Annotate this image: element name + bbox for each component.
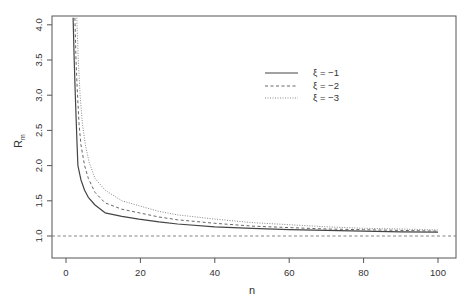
legend-item-1: ξ = −1 [265,67,339,78]
y-tick-label: 4.0 [33,18,44,31]
y-tick-label: 3.0 [33,89,44,102]
x-axis-label: n [249,284,255,296]
y-axis-label: Rm [12,134,26,148]
x-axis: 020406080100 [63,258,446,278]
series-line-2 [75,18,438,231]
chart: 020406080100 1.01.52.02.53.03.54.0 n Rm … [0,0,473,305]
legend: ξ = −1 ξ = −2 ξ = −3 [265,67,339,103]
legend-item-2: ξ = −2 [265,80,339,91]
y-tick-label: 1.0 [33,229,44,242]
svg-text:Rm: Rm [12,134,26,148]
x-tick-label: 100 [430,267,446,278]
series-layer [73,18,438,232]
legend-item-3: ξ = −3 [265,92,339,103]
x-tick-label: 60 [284,267,295,278]
y-tick-label: 2.0 [33,159,44,172]
y-axis: 1.01.52.02.53.03.54.0 [33,18,52,242]
x-tick-label: 0 [63,267,68,278]
x-tick-label: 20 [135,267,146,278]
plot-frame [52,16,456,258]
y-tick-label: 3.5 [33,53,44,66]
series-line-3 [77,18,438,230]
y-tick-label: 2.5 [33,124,44,137]
legend-label-2: ξ = −2 [313,80,339,91]
legend-label-3: ξ = −3 [313,92,339,103]
legend-label-1: ξ = −1 [313,67,339,78]
x-tick-label: 80 [358,267,369,278]
y-tick-label: 1.5 [33,194,44,207]
x-tick-label: 40 [210,267,221,278]
series-line-1 [73,18,438,232]
y-axis-label-sub: m [19,134,26,140]
y-axis-label-main: R [12,140,24,148]
